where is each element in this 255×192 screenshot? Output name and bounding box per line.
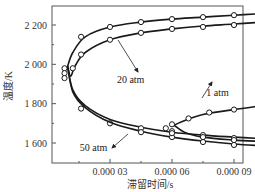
series-line — [68, 22, 255, 76]
data-point-marker — [138, 130, 143, 135]
data-point-marker — [207, 110, 212, 115]
series-50-atm-lower-branch — [68, 66, 255, 147]
annotation-label: 50 atm — [80, 142, 108, 153]
data-point-marker — [169, 26, 174, 31]
data-point-marker — [78, 106, 83, 111]
series-1-atm-lower-branch — [163, 125, 255, 142]
data-series — [62, 13, 255, 148]
series-1-atm-upper-branch — [169, 106, 255, 127]
x-tick-label: 0.000 06 — [155, 166, 190, 177]
y-tick-label: 1 800 — [25, 98, 48, 109]
data-point-marker — [169, 122, 174, 127]
y-axis-ticks: 1 6001 8002 0002 200 — [25, 20, 57, 149]
data-point-marker — [200, 135, 205, 140]
plot-area-border — [52, 6, 243, 163]
data-point-marker — [231, 137, 236, 142]
y-tick-label: 2 200 — [25, 20, 48, 31]
x-tick-label: 0.000 03 — [93, 166, 128, 177]
series-line — [68, 14, 255, 67]
data-point-marker — [62, 76, 67, 81]
data-point-marker — [107, 24, 112, 29]
annotation-label: 20 atm — [117, 74, 145, 85]
series-20-atm-upper-branch — [68, 13, 255, 67]
data-point-marker — [78, 52, 83, 57]
annotation-arrow — [118, 40, 138, 72]
data-point-marker — [200, 24, 205, 29]
data-point-marker — [70, 66, 75, 71]
data-point-marker — [186, 116, 191, 121]
data-point-marker — [107, 37, 112, 42]
data-point-marker — [169, 17, 174, 22]
series-line — [68, 66, 255, 138]
annotation-label: 1 atm — [206, 87, 229, 98]
chart: 1 6001 8002 0002 200 0.000 030.000 060.0… — [0, 0, 255, 192]
plot-frame — [52, 6, 243, 163]
x-tick-label: 0.000 09 — [217, 166, 252, 177]
data-point-marker — [231, 22, 236, 27]
series-50-atm-upper-branch — [62, 22, 255, 76]
data-point-marker — [169, 131, 174, 136]
data-point-marker — [231, 13, 236, 18]
data-point-marker — [163, 126, 168, 131]
data-point-marker — [231, 107, 236, 112]
series-line — [68, 66, 255, 146]
series-20-atm-lower-branch — [62, 66, 255, 140]
annotation-arrow — [112, 134, 128, 148]
y-tick-label: 1 600 — [25, 138, 48, 149]
data-point-marker — [138, 19, 143, 24]
data-point-marker — [78, 34, 83, 39]
x-axis-label: 滞留时间/s — [127, 178, 174, 190]
y-tick-label: 2 000 — [25, 59, 48, 70]
data-point-marker — [138, 30, 143, 35]
data-point-marker — [200, 15, 205, 20]
y-axis-label: 温度/K — [2, 70, 14, 101]
x-axis-ticks: 0.000 030.000 060.000 09 — [79, 159, 252, 177]
